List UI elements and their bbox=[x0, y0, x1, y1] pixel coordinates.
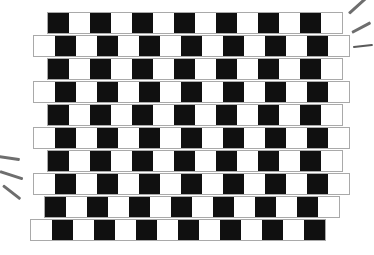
white-tile bbox=[279, 151, 300, 171]
white-tile bbox=[115, 220, 136, 240]
black-tile bbox=[300, 59, 321, 79]
black-tile bbox=[265, 174, 286, 194]
white-tile bbox=[150, 197, 171, 217]
white-tile bbox=[34, 128, 55, 148]
illusion-canvas bbox=[0, 0, 374, 255]
black-tile bbox=[97, 174, 118, 194]
white-tile bbox=[244, 174, 265, 194]
black-tile bbox=[48, 151, 69, 171]
black-tile bbox=[223, 128, 244, 148]
black-tile bbox=[97, 36, 118, 56]
black-tile bbox=[297, 197, 318, 217]
black-tile bbox=[181, 36, 202, 56]
black-tile bbox=[55, 36, 76, 56]
white-tile bbox=[328, 36, 349, 56]
black-tile bbox=[132, 59, 153, 79]
black-tile bbox=[300, 105, 321, 125]
white-tile bbox=[321, 151, 342, 171]
sparkle-stroke-icon bbox=[353, 44, 373, 48]
black-tile bbox=[45, 197, 66, 217]
black-tile bbox=[223, 174, 244, 194]
white-tile bbox=[237, 59, 258, 79]
black-tile bbox=[223, 82, 244, 102]
white-tile bbox=[279, 13, 300, 33]
white-tile bbox=[34, 36, 55, 56]
white-tile bbox=[241, 220, 262, 240]
white-tile bbox=[321, 105, 342, 125]
white-tile bbox=[202, 128, 223, 148]
black-tile bbox=[265, 36, 286, 56]
white-tile bbox=[195, 105, 216, 125]
sparkle-stroke-icon bbox=[0, 170, 23, 180]
white-tile bbox=[111, 151, 132, 171]
white-tile bbox=[279, 105, 300, 125]
white-tile bbox=[199, 220, 220, 240]
white-tile bbox=[153, 59, 174, 79]
black-tile bbox=[258, 105, 279, 125]
white-tile bbox=[279, 59, 300, 79]
white-tile bbox=[76, 128, 97, 148]
tile-row bbox=[33, 81, 350, 103]
white-tile bbox=[195, 59, 216, 79]
sparkle-stroke-icon bbox=[348, 0, 367, 15]
black-tile bbox=[132, 13, 153, 33]
white-tile bbox=[237, 105, 258, 125]
black-tile bbox=[307, 36, 328, 56]
black-tile bbox=[132, 151, 153, 171]
white-tile bbox=[111, 59, 132, 79]
black-tile bbox=[216, 105, 237, 125]
black-tile bbox=[48, 59, 69, 79]
black-tile bbox=[90, 105, 111, 125]
white-tile bbox=[108, 197, 129, 217]
tile-row bbox=[33, 173, 350, 195]
black-tile bbox=[52, 220, 73, 240]
black-tile bbox=[307, 128, 328, 148]
black-tile bbox=[139, 82, 160, 102]
white-tile bbox=[321, 13, 342, 33]
black-tile bbox=[90, 151, 111, 171]
white-tile bbox=[160, 36, 181, 56]
white-tile bbox=[202, 82, 223, 102]
white-tile bbox=[160, 128, 181, 148]
tile-row bbox=[33, 127, 350, 149]
black-tile bbox=[139, 36, 160, 56]
white-tile bbox=[328, 174, 349, 194]
white-tile bbox=[111, 105, 132, 125]
black-tile bbox=[300, 151, 321, 171]
white-tile bbox=[118, 36, 139, 56]
black-tile bbox=[55, 128, 76, 148]
black-tile bbox=[216, 151, 237, 171]
black-tile bbox=[171, 197, 192, 217]
tile-row bbox=[33, 35, 350, 57]
sparkle-stroke-icon bbox=[2, 184, 21, 200]
white-tile bbox=[76, 174, 97, 194]
white-tile bbox=[244, 36, 265, 56]
white-tile bbox=[31, 220, 52, 240]
black-tile bbox=[48, 105, 69, 125]
white-tile bbox=[76, 36, 97, 56]
black-tile bbox=[90, 59, 111, 79]
white-tile bbox=[276, 197, 297, 217]
black-tile bbox=[216, 13, 237, 33]
white-tile bbox=[118, 82, 139, 102]
black-tile bbox=[174, 13, 195, 33]
black-tile bbox=[307, 174, 328, 194]
black-tile bbox=[181, 82, 202, 102]
black-tile bbox=[129, 197, 150, 217]
black-tile bbox=[90, 13, 111, 33]
white-tile bbox=[76, 82, 97, 102]
white-tile bbox=[286, 128, 307, 148]
white-tile bbox=[321, 59, 342, 79]
black-tile bbox=[220, 220, 241, 240]
black-tile bbox=[174, 151, 195, 171]
sparkle-stroke-icon bbox=[351, 21, 371, 34]
white-tile bbox=[157, 220, 178, 240]
black-tile bbox=[258, 13, 279, 33]
black-tile bbox=[213, 197, 234, 217]
black-tile bbox=[139, 128, 160, 148]
black-tile bbox=[255, 197, 276, 217]
black-tile bbox=[258, 59, 279, 79]
black-tile bbox=[265, 82, 286, 102]
white-tile bbox=[202, 36, 223, 56]
cafe-wall-figure bbox=[0, 0, 374, 255]
